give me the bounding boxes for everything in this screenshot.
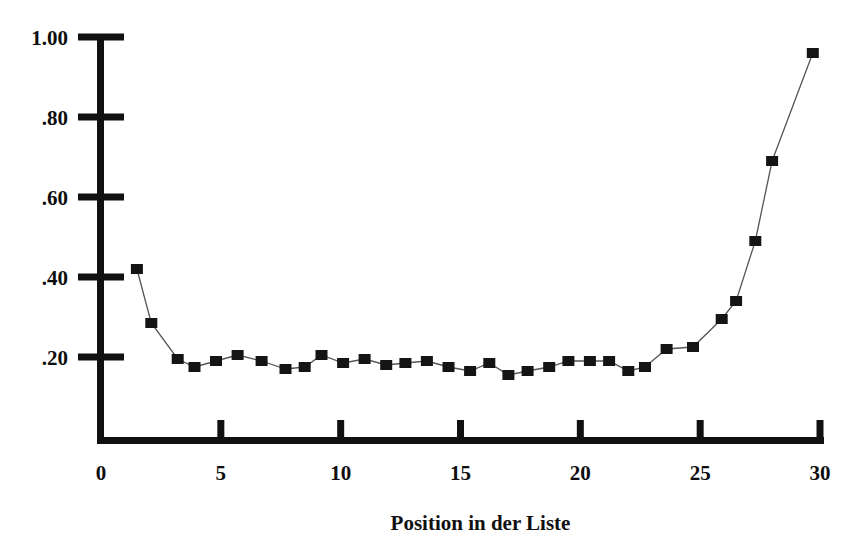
data-point-marker [337,358,349,368]
y-tick-.60 [78,194,124,201]
x-tick-5 [217,420,224,444]
x-tick-label: 25 [690,461,711,485]
x-tick-30 [817,420,824,444]
data-point-marker [380,360,392,370]
y-tick-.20 [78,354,124,361]
x-tick-label: 30 [810,461,831,485]
data-point-marker [232,350,244,360]
y-tick-label: 1.00 [31,26,68,50]
line-chart-svg: .20.40.60.801.00051015202530Position in … [0,0,868,556]
data-point-marker [622,366,634,376]
data-point-marker [280,364,292,374]
y-axis-line [97,37,104,441]
x-tick-label: 10 [330,461,351,485]
data-point-marker [316,350,328,360]
x-tick-25 [697,420,704,444]
x-tick-20 [577,420,584,444]
x-tick-label: 20 [570,461,591,485]
data-point-marker [464,366,476,376]
data-point-marker [502,370,514,380]
series-0 [131,48,819,380]
x-tick-label: 0 [96,461,107,485]
data-point-marker [483,358,495,368]
data-point-marker [584,356,596,366]
x-tick-label: 5 [216,461,227,485]
data-point-marker [131,264,143,274]
y-tick-1.00 [78,34,124,41]
y-tick-.40 [78,274,124,281]
data-point-marker [256,356,268,366]
y-tick-label: .20 [42,346,68,370]
data-point-marker [189,362,201,372]
series-line [137,53,813,375]
data-point-marker [172,354,184,364]
x-axis-title: Position in der Liste [391,511,571,535]
data-point-marker [543,362,555,372]
data-point-marker [145,318,157,328]
y-tick-label: .80 [42,106,68,130]
x-tick-15 [457,420,464,444]
data-point-marker [359,354,371,364]
data-point-marker [687,342,699,352]
data-point-marker [443,362,455,372]
data-point-marker [730,296,742,306]
data-point-marker [661,344,673,354]
data-point-marker [299,362,311,372]
data-point-marker [603,356,615,366]
data-point-marker [421,356,433,366]
y-tick-.80 [78,114,124,121]
data-point-marker [749,236,761,246]
data-point-marker [562,356,574,366]
data-point-marker [399,358,411,368]
y-tick-label: .40 [42,266,68,290]
data-point-marker [716,314,728,324]
y-tick-label: .60 [42,186,68,210]
data-point-marker [639,362,651,372]
data-point-marker [522,366,534,376]
x-tick-label: 15 [450,461,471,485]
chart-figure: .20.40.60.801.00051015202530Position in … [0,0,868,556]
x-tick-10 [337,420,344,444]
data-point-marker [210,356,222,366]
data-point-marker [766,156,778,166]
data-point-marker [807,48,819,58]
